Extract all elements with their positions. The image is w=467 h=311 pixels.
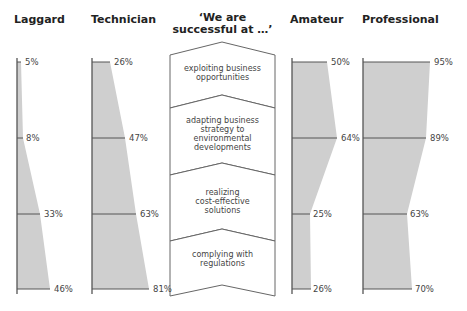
amateur-value-4: 26% [313, 284, 332, 294]
technician-value-1: 26% [114, 57, 133, 67]
professional-value-4: 70% [415, 284, 434, 294]
stage-label-line: realizing [172, 188, 273, 197]
technician-value-2: 47% [129, 133, 148, 143]
stage-label-line: opportunities [172, 73, 273, 82]
stage-label-line: exploiting business [172, 64, 273, 73]
professional-value-1: 95% [434, 57, 453, 67]
stage-label-exploiting: exploiting business opportunities [172, 64, 273, 82]
professional-shape [363, 58, 430, 294]
laggard-value-2: 8% [26, 133, 40, 143]
laggard-value-1: 5% [25, 57, 39, 67]
amateur-value-3: 25% [313, 209, 332, 219]
stage-label-line: regulations [172, 259, 273, 268]
stage-label-line: strategy to [172, 125, 273, 134]
technician-value-3: 63% [140, 209, 159, 219]
professional-value-2: 89% [430, 133, 449, 143]
amateur-shape [292, 58, 337, 294]
stage-label-line: solutions [172, 206, 273, 215]
amateur-value-1: 50% [331, 57, 350, 67]
stage-label-line: environmental [172, 134, 273, 143]
technician-value-4: 81% [153, 284, 172, 294]
laggard-shape [17, 58, 50, 294]
stage-label-complying: complying with regulations [172, 250, 273, 268]
laggard-value-4: 46% [54, 284, 73, 294]
laggard-value-3: 33% [44, 209, 63, 219]
stage-label-line: cost-effective [172, 197, 273, 206]
stage-label-realizing: realizing cost-effective solutions [172, 188, 273, 215]
professional-value-3: 63% [410, 209, 429, 219]
technician-shape [92, 58, 149, 294]
stage-label-line: developments [172, 143, 273, 152]
stage-label-adapting: adapting business strategy to environmen… [172, 116, 273, 152]
stage-label-line: adapting business [172, 116, 273, 125]
amateur-value-2: 64% [341, 133, 360, 143]
stage-label-line: complying with [172, 250, 273, 259]
